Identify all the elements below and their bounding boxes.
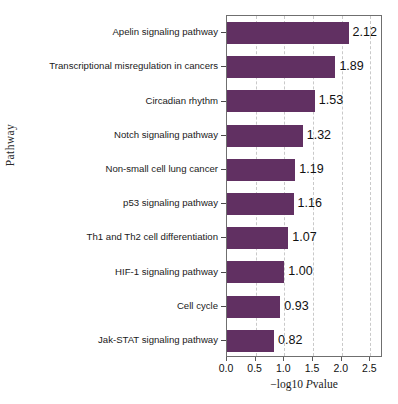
x-axis-title: −log10 Pvalue [226, 378, 382, 390]
bar [227, 193, 294, 215]
bar-row: 1.32 [227, 119, 381, 153]
bar [227, 125, 303, 147]
bar-value-label: 1.07 [288, 227, 316, 249]
y-tick-mark [221, 340, 226, 341]
y-tick-mark [221, 169, 226, 170]
y-tick-mark [221, 66, 226, 67]
y-tick-mark [221, 32, 226, 33]
bar [227, 261, 284, 283]
y-tick-mark [221, 203, 226, 204]
bar-value-label: 1.89 [335, 56, 363, 78]
x-tick-mark [283, 357, 284, 361]
bar-row: 1.19 [227, 153, 381, 187]
x-tick-mark [341, 357, 342, 361]
bar-row: 1.53 [227, 84, 381, 118]
y-tick-label: Non-small cell lung cancer [0, 163, 218, 175]
bar [227, 22, 349, 44]
bar [227, 56, 335, 78]
bar-value-label: 1.16 [294, 193, 322, 215]
y-tick-label: Apelin signaling pathway [0, 26, 218, 38]
bar-value-label: 1.53 [315, 90, 343, 112]
x-tick-mark [255, 357, 256, 361]
bar-row: 2.12 [227, 16, 381, 50]
y-tick-mark [221, 101, 226, 102]
y-tick-label: HIF-1 signaling pathway [0, 266, 218, 278]
bar-value-label: 1.00 [284, 261, 312, 283]
y-tick-mark [221, 272, 226, 273]
y-tick-mark [221, 237, 226, 238]
x-tick-mark [226, 357, 227, 361]
y-tick-label: Cell cycle [0, 300, 218, 312]
bar [227, 330, 274, 352]
bar-value-label: 1.32 [303, 125, 331, 147]
bar-chart-figure: Pathway 2.121.891.531.321.191.161.071.00… [0, 0, 398, 404]
x-tick-mark [312, 357, 313, 361]
bar [227, 227, 288, 249]
y-tick-label: Circadian rhythm [0, 95, 218, 107]
bar-row: 1.07 [227, 221, 381, 255]
y-tick-mark [221, 135, 226, 136]
bar-value-label: 0.82 [274, 330, 302, 352]
y-tick-label: p53 signaling pathway [0, 197, 218, 209]
figure-caption [60, 394, 390, 403]
bar-row: 0.82 [227, 324, 381, 358]
bar-value-label: 0.93 [280, 296, 308, 318]
bar-value-label: 1.19 [295, 159, 323, 181]
y-tick-label: Transcriptional misregulation in cancers [0, 60, 218, 72]
x-tick-mark [369, 357, 370, 361]
y-tick-label: Notch signaling pathway [0, 129, 218, 141]
y-tick-label: Jak-STAT signaling pathway [0, 334, 218, 346]
x-axis-title-italic: P [306, 378, 313, 390]
y-tick-label: Th1 and Th2 cell differentiation [0, 231, 218, 243]
x-tick-label: 2.5 [349, 362, 389, 374]
y-tick-mark [221, 306, 226, 307]
bar-value-label: 2.12 [349, 22, 377, 44]
plot-area: 2.121.891.531.321.191.161.071.000.930.82 [226, 15, 382, 357]
bar [227, 159, 295, 181]
bar-row: 1.89 [227, 50, 381, 84]
bar-row: 1.16 [227, 187, 381, 221]
x-axis-title-suffix: value [313, 378, 338, 390]
bar-row: 0.93 [227, 290, 381, 324]
bar-row: 1.00 [227, 255, 381, 289]
x-axis-title-prefix: −log10 [270, 378, 306, 390]
bar [227, 90, 315, 112]
bar [227, 296, 280, 318]
